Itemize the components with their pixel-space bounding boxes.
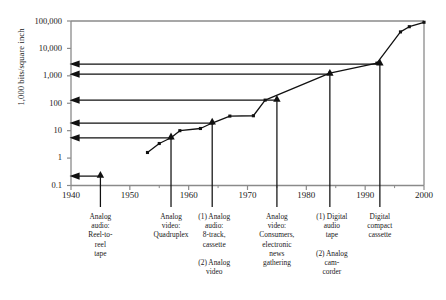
data-series-markers [146,21,426,154]
callout-6: Digital compact cassette [356,212,404,240]
callout-4: Analog video: Consumers, electronic news… [248,212,306,267]
callout-1: Analog audio: Reel-to- reel tape [77,212,123,258]
data-series-line [147,22,424,152]
callout-3: (1) Analog audio: 8-track, cassette (2) … [187,212,241,276]
chart-axes [67,21,424,190]
callout-5: (1) Digital audio tape (2) Analog cam- c… [306,212,358,276]
chart-figure: 1,000 bits/square inch 100,000 10,000 1,… [0,0,446,300]
callout-arrows [70,60,380,179]
callout-triangle-markers [97,59,384,178]
